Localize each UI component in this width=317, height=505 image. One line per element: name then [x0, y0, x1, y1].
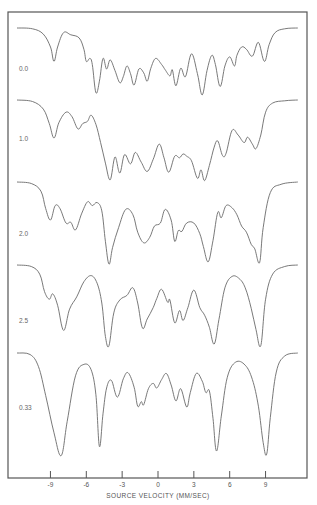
x-tick-label: 3 — [192, 481, 196, 488]
series-label-0-33: 0.33 — [19, 404, 32, 411]
spectrum-trace-2-0 — [17, 182, 298, 264]
x-tick-label: 9 — [264, 481, 268, 488]
x-tick-label: -6 — [83, 481, 89, 488]
spectrum-trace-2-5 — [17, 265, 298, 347]
series-label-1-0: 1.0 — [19, 135, 28, 142]
x-axis-ticks: -9-6-30369 — [48, 471, 268, 488]
x-tick-label: -3 — [119, 481, 125, 488]
series-label-2-0: 2.0 — [19, 230, 28, 237]
x-tick-label: 0 — [156, 481, 160, 488]
x-tick-label: -9 — [48, 481, 54, 488]
traces-group — [17, 28, 298, 456]
plot-frame — [8, 12, 307, 478]
series-label-2-5: 2.5 — [19, 317, 28, 324]
x-axis-label: SOURCE VELOCITY (MM/SEC) — [106, 492, 209, 500]
mossbauer-chart: 0.01.02.02.50.33 -9-6-30369 SOURCE VELOC… — [0, 0, 317, 505]
x-tick-label: 6 — [228, 481, 232, 488]
series-labels-group: 0.01.02.02.50.33 — [19, 65, 32, 411]
spectrum-trace-1-0 — [17, 100, 298, 181]
spectrum-trace-0-0 — [17, 28, 298, 95]
spectrum-trace-0-33 — [17, 353, 298, 456]
series-label-0-0: 0.0 — [19, 65, 28, 72]
